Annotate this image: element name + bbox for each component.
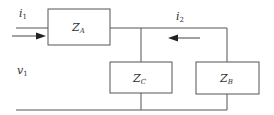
label-zb: ZB: [219, 72, 233, 86]
current-arrow-i2: [168, 35, 200, 42]
label-zc: ZC: [132, 72, 147, 86]
label-i1: i1: [19, 7, 27, 21]
top-wire: [110, 28, 227, 62]
current-arrow-i1: [12, 33, 46, 40]
label-i2: i2: [176, 10, 184, 24]
label-za: ZA: [71, 21, 85, 35]
label-v1: v1: [17, 64, 28, 78]
circuit-diagram: i1 i2 v1 ZA ZC ZB: [0, 0, 274, 115]
